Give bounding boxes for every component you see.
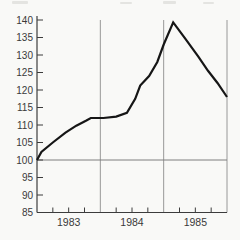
y-tick-label: 85 xyxy=(22,207,34,218)
y-tick-label: 120 xyxy=(16,85,33,96)
y-tick-label: 140 xyxy=(16,15,33,26)
cropped-text-remnant xyxy=(163,1,176,4)
cropped-text-remnant xyxy=(203,2,214,4)
y-tick-label: 135 xyxy=(16,32,33,43)
cropped-text-remnant xyxy=(12,1,28,4)
y-tick-label: 100 xyxy=(16,155,33,166)
y-tick-label: 95 xyxy=(22,172,34,183)
y-tick-label: 90 xyxy=(22,190,34,201)
x-year-label: 1984 xyxy=(120,216,144,228)
y-tick-label: 130 xyxy=(16,50,33,61)
y-tick-label: 105 xyxy=(16,137,33,148)
chart-page: 8590951001051101151201251301351401983198… xyxy=(0,0,240,240)
y-tick-label: 115 xyxy=(17,102,33,113)
x-year-label: 1983 xyxy=(57,216,81,228)
y-tick-label: 110 xyxy=(17,120,33,131)
cropped-text-remnant xyxy=(120,2,132,4)
x-year-label: 1985 xyxy=(184,216,208,228)
y-tick-label: 125 xyxy=(16,67,33,78)
line-chart: 8590951001051101151201251301351401983198… xyxy=(0,0,240,240)
data-line xyxy=(37,22,227,160)
